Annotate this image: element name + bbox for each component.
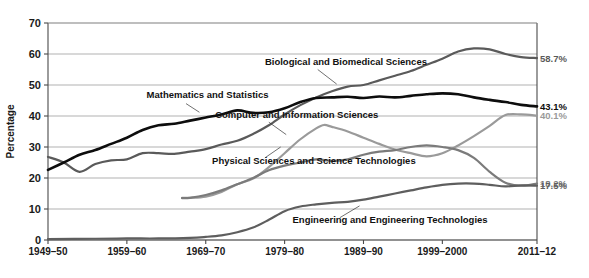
ytick-label: 60: [29, 48, 41, 60]
xtick-label: 1949–50: [29, 246, 68, 257]
ytick-label: 20: [29, 172, 41, 184]
ytick-label: 40: [29, 110, 41, 122]
series-label-2: Computer and Information Sciences: [215, 109, 378, 120]
ytick-label: 50: [29, 79, 41, 91]
ytick-label: 70: [29, 17, 41, 29]
series-line-3: [182, 145, 537, 198]
line-chart: 0102030405060701949–501959–601969–701979…: [0, 0, 589, 260]
series-label-0: Biological and Biomedical Sciences: [265, 56, 427, 67]
series-leader-1: [186, 104, 199, 113]
xtick-label: 1989–90: [344, 246, 383, 257]
ytick-label: 0: [35, 234, 41, 246]
series-line-4: [48, 183, 537, 239]
series-leader-2: [269, 122, 286, 134]
chart-page: 0102030405060701949–501959–601969–701979…: [0, 0, 589, 278]
y-axis-title: Percentage: [5, 104, 16, 158]
xtick-label: 1969–70: [186, 246, 225, 257]
end-label-2: 40.1%: [540, 110, 567, 121]
xtick-label: 1959–60: [107, 246, 146, 257]
ytick-label: 30: [29, 141, 41, 153]
end-label-4: 17.5%: [540, 180, 567, 191]
ytick-label: 10: [29, 203, 41, 215]
series-label-4: Engineering and Engineering Technologies: [293, 214, 488, 225]
chart-svg: 0102030405060701949–501959–601969–701979…: [0, 0, 589, 260]
xtick-label: 1979–80: [265, 246, 304, 257]
xtick-label: 1999–2000: [417, 246, 467, 257]
end-label-0: 58.7%: [540, 53, 567, 64]
series-leader-0: [318, 70, 337, 85]
series-label-1: Mathematics and Statistics: [147, 89, 269, 100]
series-label-3: Physical Sciences and Science Technologi…: [212, 155, 416, 166]
xtick-label: 2011–12: [518, 246, 557, 257]
